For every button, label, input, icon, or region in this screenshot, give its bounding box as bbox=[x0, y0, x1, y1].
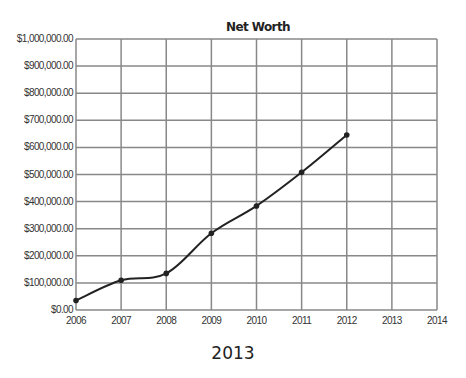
y-tick-label: $900,000.00 bbox=[24, 60, 74, 71]
x-tick-label: 2014 bbox=[427, 315, 448, 326]
y-tick-label: $800,000.00 bbox=[24, 87, 74, 98]
x-tick-label: 2006 bbox=[66, 315, 87, 326]
data-point bbox=[209, 231, 215, 237]
y-tick-label: $1,000,000.00 bbox=[17, 33, 74, 44]
data-point bbox=[73, 298, 79, 304]
x-tick-label: 2011 bbox=[292, 315, 312, 326]
y-tick-label: $300,000.00 bbox=[24, 223, 74, 234]
y-tick-label: $700,000.00 bbox=[24, 114, 74, 125]
y-tick-label: $400,000.00 bbox=[24, 196, 74, 207]
data-point bbox=[163, 271, 169, 277]
chart-title: Net Worth bbox=[226, 20, 290, 34]
net-worth-chart: Net Worth $0.00$100,000.00$200,000.00$30… bbox=[0, 0, 466, 340]
x-tick-label: 2013 bbox=[382, 315, 403, 326]
x-tick-label: 2012 bbox=[337, 315, 358, 326]
y-tick-label: $200,000.00 bbox=[24, 250, 74, 261]
data-point bbox=[118, 277, 124, 283]
data-point bbox=[344, 132, 350, 138]
y-tick-label: $0.00 bbox=[51, 304, 74, 315]
y-axis-ticks: $0.00$100,000.00$200,000.00$300,000.00$4… bbox=[17, 33, 74, 315]
x-tick-label: 2008 bbox=[156, 315, 177, 326]
x-axis-ticks: 200620072008200920102011201220132014 bbox=[66, 315, 448, 326]
x-tick-label: 2010 bbox=[247, 315, 268, 326]
y-tick-label: $100,000.00 bbox=[24, 277, 74, 288]
data-point bbox=[299, 170, 305, 176]
data-point bbox=[254, 203, 260, 209]
y-tick-label: $600,000.00 bbox=[24, 141, 74, 152]
y-tick-label: $500,000.00 bbox=[24, 169, 74, 180]
x-tick-label: 2009 bbox=[201, 315, 222, 326]
caption-year: 2013 bbox=[0, 343, 466, 363]
chart-grid bbox=[76, 39, 437, 310]
x-tick-label: 2007 bbox=[111, 315, 132, 326]
